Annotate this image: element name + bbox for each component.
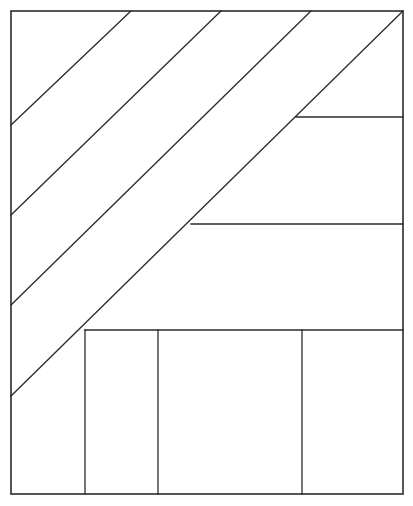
line-figure-svg (0, 0, 413, 506)
figure-canvas (0, 0, 413, 506)
